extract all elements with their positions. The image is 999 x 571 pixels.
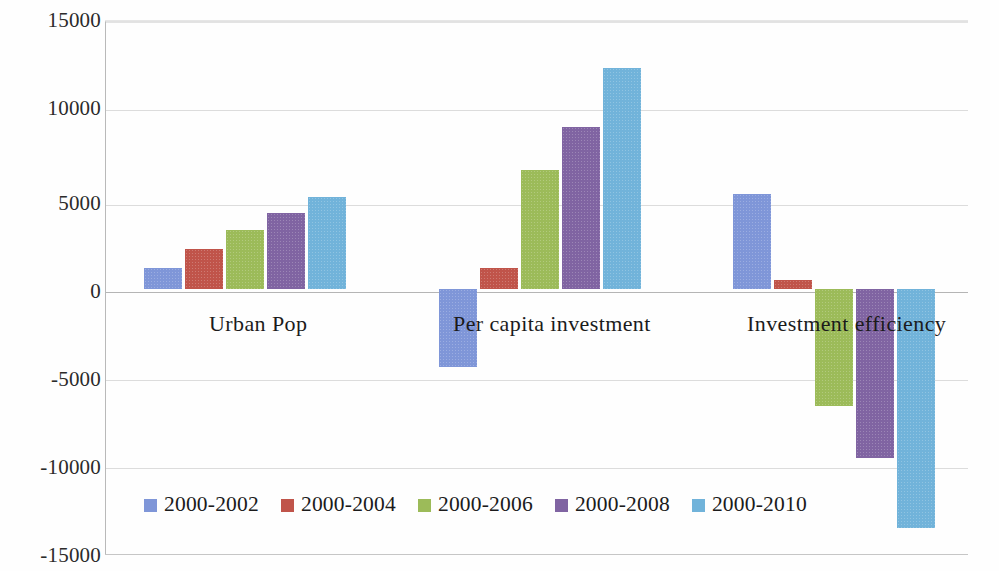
legend: 2000-20022000-20042000-20062000-20082000… [144,492,807,517]
legend-label-2000-2006: 2000-2006 [438,492,533,517]
chart-bottom-rule [105,554,968,555]
legend-item-2000-2008[interactable]: 2000-2008 [555,492,670,517]
y-axis-tick-5000: 5000 [5,193,101,214]
bar-per-capita-investment-2000-2008 [562,127,600,289]
bar-urban-pop-2000-2010 [308,197,346,289]
y-axis-tick-neg15000: -15000 [5,545,101,566]
gridline-10000 [106,110,968,111]
bar-urban-pop-2000-2004 [185,249,223,289]
y-axis-tick-labels: 15000 10000 5000 0 -5000 -10000 -15000 [0,0,101,571]
bar-chart: 15000 10000 5000 0 -5000 -10000 -15000 U… [0,0,999,571]
gridline-neg10000 [106,468,968,469]
category-label-investment-efficiency: Investment efficiency [747,311,946,337]
legend-swatch-icon-2000-2010 [692,499,705,512]
plot-area: Urban Pop Per capita investment Investme… [105,21,968,555]
legend-swatch-icon-2000-2004 [281,499,294,512]
legend-swatch-icon-2000-2002 [144,499,157,512]
bar-urban-pop-2000-2002 [144,268,182,289]
bar-urban-pop-2000-2008 [267,213,305,289]
legend-item-2000-2006[interactable]: 2000-2006 [418,492,533,517]
legend-item-2000-2004[interactable]: 2000-2004 [281,492,396,517]
y-axis-tick-neg5000: -5000 [5,369,101,390]
legend-label-2000-2004: 2000-2004 [301,492,396,517]
bar-per-capita-investment-2000-2006 [521,170,559,289]
legend-label-2000-2008: 2000-2008 [575,492,670,517]
bar-investment-efficiency-2000-2006 [815,289,853,406]
bar-per-capita-investment-2000-2004 [480,268,518,289]
gridline-15000 [106,22,968,23]
category-label-urban-pop: Urban Pop [209,311,307,337]
legend-swatch-icon-2000-2006 [418,499,431,512]
bar-per-capita-investment-2000-2010 [603,68,641,289]
legend-item-2000-2002[interactable]: 2000-2002 [144,492,259,517]
y-axis-tick-neg10000: -10000 [5,457,101,478]
legend-item-2000-2010[interactable]: 2000-2010 [692,492,807,517]
legend-swatch-icon-2000-2008 [555,499,568,512]
y-axis-tick-15000: 15000 [5,10,101,31]
bar-investment-efficiency-2000-2002 [733,194,771,289]
y-axis-tick-0: 0 [5,281,101,302]
category-label-per-capita-investment: Per capita investment [453,311,651,337]
bar-investment-efficiency-2000-2004 [774,280,812,289]
y-axis-tick-10000: 10000 [5,98,101,119]
legend-label-2000-2010: 2000-2010 [712,492,807,517]
legend-label-2000-2002: 2000-2002 [164,492,259,517]
bar-urban-pop-2000-2006 [226,230,264,289]
